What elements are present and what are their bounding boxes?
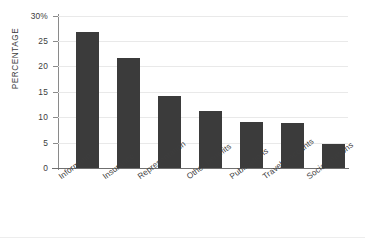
bar-insurance: [117, 58, 140, 168]
bar-chart-figure: PERCENTAGE 30% 25 20 15 10 5 0 Informati…: [0, 0, 365, 243]
bar-information: [76, 32, 99, 168]
y-tick-label-15: 15: [38, 87, 48, 97]
y-tick-label-20: 20: [38, 61, 48, 71]
page-bottom-edge: [0, 237, 365, 238]
y-tick-label-25: 25: [38, 36, 48, 46]
y-tick-label-10: 10: [38, 112, 48, 122]
gridline-25: [58, 41, 348, 42]
y-tick-label-5: 5: [43, 138, 48, 148]
gridline-15: [58, 92, 348, 93]
y-axis-title: PERCENTAGE: [11, 0, 20, 119]
y-tick-label-30: 30%: [31, 11, 48, 21]
gridline-20: [58, 66, 348, 67]
y-tick-label-0: 0: [43, 163, 48, 173]
gridline-30: [58, 16, 348, 17]
